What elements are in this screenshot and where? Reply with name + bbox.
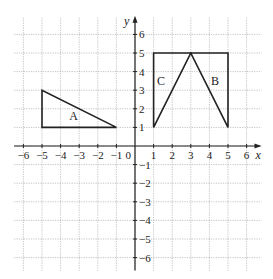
shape-label-a: A [69,109,78,123]
y-tick-label: 4 [139,66,145,78]
y-tick-label: −1 [139,159,151,171]
x-tick-label: 1 [151,149,157,161]
y-axis-label: y [123,14,130,28]
x-tick-label: −5 [36,149,48,161]
y-tick-label: −4 [139,214,151,226]
y-axis-arrow-icon [133,16,138,23]
y-tick-label: 5 [139,47,145,59]
grid-lines [14,18,261,271]
shape-label-b: B [211,74,219,88]
y-tick-label: −6 [139,252,151,264]
coordinate-grid: −6−5−4−3−2−1123456−6−5−4−3−2−11234560xyA… [0,0,273,279]
x-tick-label: −4 [55,149,67,161]
x-tick-label: −3 [73,149,85,161]
origin-label: 0 [126,149,132,161]
x-tick-label: 6 [244,149,250,161]
y-tick-label: −3 [139,196,151,208]
x-axis-label: x [254,148,261,162]
x-tick-label: 4 [207,149,213,161]
x-tick-label: 5 [225,149,231,161]
y-tick-label: 3 [139,84,145,96]
shape-label-c: C [157,74,165,88]
x-tick-label: −6 [18,149,30,161]
y-tick-label: 1 [139,121,145,133]
x-tick-label: 3 [188,149,194,161]
y-tick-label: −2 [139,177,151,189]
x-tick-label: −1 [111,149,123,161]
x-tick-label: 2 [169,149,175,161]
x-tick-label: −2 [92,149,104,161]
y-tick-label: 6 [139,28,145,40]
y-tick-label: 2 [139,103,145,115]
y-tick-label: −5 [139,233,151,245]
